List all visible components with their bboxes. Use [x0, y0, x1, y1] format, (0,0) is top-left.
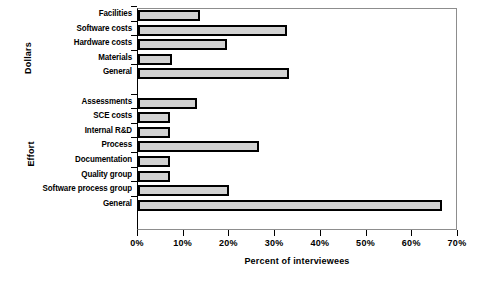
- plot-area: [137, 8, 457, 230]
- x-axis-tick-label: 0%: [117, 238, 157, 248]
- bar-row: [138, 200, 442, 211]
- x-axis-tick-label: 20%: [208, 238, 248, 248]
- bar-row: [138, 10, 200, 21]
- y-axis-tick: [131, 108, 137, 109]
- category-axis-labels: FacilitiesSoftware costsHardware costsMa…: [36, 8, 132, 230]
- x-axis-tick-label: 70%: [437, 238, 477, 248]
- x-axis-tick: [274, 230, 275, 236]
- bar-row: [138, 171, 170, 182]
- x-axis-tick-label: 10%: [163, 238, 203, 248]
- y-axis-tick: [131, 35, 137, 36]
- y-axis-tick: [131, 196, 137, 197]
- x-axis-tick: [183, 230, 184, 236]
- bar-row: [138, 25, 287, 36]
- bar-row: [138, 39, 227, 50]
- bar: [138, 171, 170, 182]
- x-axis-tick: [228, 230, 229, 236]
- y-axis-tick: [131, 167, 137, 168]
- bar: [138, 200, 442, 211]
- bar: [138, 141, 259, 152]
- group-axis-label-dollars: Dollars: [22, 28, 34, 88]
- category-label: Assessments: [42, 96, 132, 106]
- x-axis-title: Percent of interviewees: [137, 256, 457, 266]
- y-axis-tick: [131, 137, 137, 138]
- bar-row: [138, 185, 229, 196]
- bar-row: [138, 54, 172, 65]
- bar: [138, 39, 227, 50]
- y-axis-tick: [131, 6, 137, 7]
- bar: [138, 25, 287, 36]
- x-axis-tick-label: 60%: [391, 238, 431, 248]
- y-axis-tick: [131, 181, 137, 182]
- category-label: General: [42, 198, 132, 208]
- category-label: Software process group: [42, 183, 132, 193]
- x-axis-tick: [457, 230, 458, 236]
- bar: [138, 10, 200, 21]
- x-axis-tick-label: 40%: [300, 238, 340, 248]
- x-axis-tick: [411, 230, 412, 236]
- bar-row: [138, 141, 259, 152]
- bar: [138, 112, 170, 123]
- bar: [138, 156, 170, 167]
- x-axis-tick: [366, 230, 367, 236]
- y-axis-tick: [131, 152, 137, 153]
- y-axis-tick: [131, 21, 137, 22]
- category-label: Process: [42, 139, 132, 149]
- bar: [138, 98, 197, 109]
- bar: [138, 185, 229, 196]
- y-axis-tick: [131, 64, 137, 65]
- x-axis-tick-label: 30%: [254, 238, 294, 248]
- category-label: Hardware costs: [42, 37, 132, 47]
- bar: [138, 54, 172, 65]
- bar-row: [138, 98, 197, 109]
- y-axis-tick: [131, 50, 137, 51]
- category-label: Internal R&D: [42, 125, 132, 135]
- bar-row: [138, 68, 289, 79]
- x-axis-tick: [320, 230, 321, 236]
- y-axis-tick: [131, 123, 137, 124]
- category-label: Quality group: [42, 169, 132, 179]
- y-axis-tick: [131, 94, 137, 95]
- x-axis-tick-label: 50%: [346, 238, 386, 248]
- category-label: Software costs: [42, 23, 132, 33]
- category-label: Documentation: [42, 154, 132, 164]
- category-label: Materials: [42, 52, 132, 62]
- bar-row: [138, 127, 170, 138]
- bar-row: [138, 156, 170, 167]
- x-axis-tick: [137, 230, 138, 236]
- category-label: SCE costs: [42, 110, 132, 120]
- bar: [138, 68, 289, 79]
- category-label: General: [42, 66, 132, 76]
- bar-row: [138, 112, 170, 123]
- category-label: Facilities: [42, 8, 132, 18]
- bar-chart: Dollars Effort FacilitiesSoftware costsH…: [0, 0, 479, 283]
- bar: [138, 127, 170, 138]
